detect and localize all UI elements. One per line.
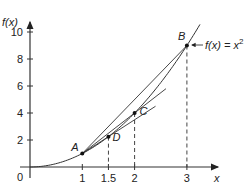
- curve-label-exponent: 2: [239, 37, 244, 46]
- x-tick-label: 1.5: [101, 172, 116, 184]
- curve-label-text: f(x) = x: [205, 39, 239, 51]
- y-tick-label: 6: [17, 80, 23, 92]
- point-c: [133, 111, 137, 115]
- point-label-b: B: [178, 30, 185, 42]
- y-tick-label: 8: [17, 53, 23, 65]
- origin-label: 0: [17, 171, 23, 183]
- curve-x-squared: [30, 24, 200, 167]
- chart: 11.523246810 ADCB f(x) x 0 f(x) = x2: [0, 0, 245, 191]
- point-label-c: C: [140, 105, 148, 117]
- y-tick-label: 4: [17, 107, 23, 119]
- point-label-d: D: [112, 131, 120, 143]
- y-tick-label: 2: [17, 134, 23, 146]
- axis-labels: f(x) x 0 f(x) = x2: [2, 16, 244, 184]
- axis-ticks: 11.523246810: [11, 26, 190, 184]
- labelled-points: ADCB: [70, 30, 203, 156]
- x-axis-label: x: [213, 172, 220, 184]
- x-tick-label: 1: [79, 172, 85, 184]
- chord-ac: [82, 89, 166, 154]
- point-b: [185, 44, 189, 48]
- point-a: [80, 152, 84, 156]
- x-tick-label: 3: [184, 172, 190, 184]
- x-tick-label: 2: [132, 172, 138, 184]
- point-label-a: A: [70, 141, 78, 153]
- curve-label: f(x) = x2: [205, 37, 244, 51]
- point-d: [106, 135, 110, 139]
- y-axis-label: f(x): [2, 16, 18, 28]
